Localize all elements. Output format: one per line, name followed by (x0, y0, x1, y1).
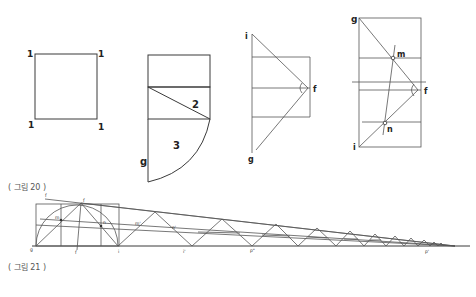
label-m: m (55, 215, 59, 220)
label-i-prime: i' (183, 249, 186, 254)
fig20-panel4-construction: g m f n i (351, 14, 428, 152)
diagram-canvas: 1 1 1 1 2 3 g i f g (0, 0, 476, 297)
fig20-panel3-triangle: i f g (245, 32, 317, 164)
fig20-panel2-construction: 2 3 g (140, 55, 210, 182)
label-g: g (140, 156, 147, 167)
label-1-tl: 1 (27, 49, 33, 59)
label-f: f (424, 87, 428, 96)
label-1-br: 1 (98, 122, 104, 132)
label-i: i (118, 249, 119, 254)
label-n-prime: n' (172, 225, 176, 230)
label-f: f (313, 85, 317, 94)
fig20-panel1-square: 1 1 1 1 (27, 49, 104, 132)
caption-figure-20: ( 그림 20 ) (8, 182, 46, 192)
label-m: m (397, 50, 405, 59)
label-m-prime: m' (135, 221, 141, 226)
label-3: 3 (173, 140, 180, 151)
label-n: n (103, 220, 106, 225)
label-g: g (30, 247, 33, 252)
label-p-double-prime: p" (250, 248, 255, 253)
label-f-top: f (83, 198, 85, 203)
label-2: 2 (192, 99, 199, 110)
label-i: i (245, 32, 248, 41)
label-p-prime: p' (425, 249, 429, 254)
label-f-top-left: f (45, 193, 47, 198)
label-g: g (351, 14, 357, 24)
fig21-perspective-construction: f f m n m' n' g f i i' p" p' (30, 193, 470, 255)
label-1-tr: 1 (98, 49, 104, 59)
label-i: i (353, 143, 356, 152)
label-f-mid: f (75, 250, 77, 255)
label-n: n (387, 125, 393, 134)
label-1-bl: 1 (28, 120, 34, 130)
caption-figure-21: ( 그림 21 ) (8, 262, 46, 272)
label-g: g (248, 155, 254, 164)
